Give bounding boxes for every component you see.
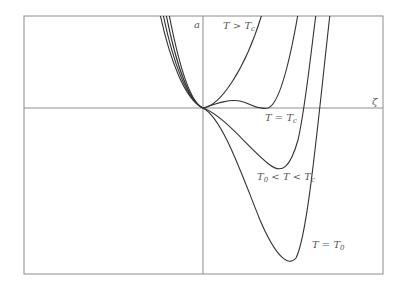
label-sub: c [251,25,255,33]
label-sub: c [311,176,315,184]
curve-t-between [169,14,330,261]
label-t-between: T0 < T < Tc [257,172,315,184]
label-t-equal-t0: T = T0 [312,240,345,252]
y-axis-label-text: a [194,19,200,30]
x-axis-label: ζ [372,97,377,107]
label-main: < T < T [268,171,311,182]
label-t-equal-tc: T = Tc [265,113,297,125]
landau-free-energy-diagram: a ζ T > Tc T = Tc T0 < T < Tc T = T0 [0,0,403,288]
x-axis-label-text: ζ [372,96,377,107]
label-main: T = T [312,239,340,250]
label-pre: T [257,171,264,182]
label-main: T > T [223,20,251,31]
label-main: T = T [265,112,293,123]
label-sub: c [293,117,297,125]
y-axis-label: a [194,20,200,30]
label-sub: 0 [340,244,344,252]
label-t-above-tc: T > Tc [223,21,255,33]
